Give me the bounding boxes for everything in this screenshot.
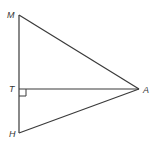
triangle-diagram: M T H A (0, 0, 158, 148)
segment-ma (19, 15, 139, 89)
label-m: M (7, 10, 15, 20)
label-t: T (9, 84, 16, 94)
label-h: H (9, 129, 16, 139)
label-a: A (142, 85, 149, 95)
right-angle-marker (19, 89, 26, 96)
segment-ha (19, 89, 139, 133)
